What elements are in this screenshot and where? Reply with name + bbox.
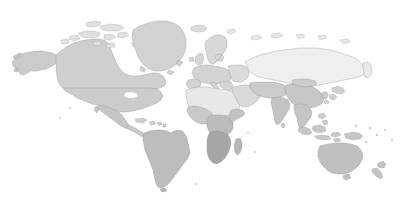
world-map-container — [0, 0, 411, 215]
world-map-svg — [0, 0, 411, 215]
